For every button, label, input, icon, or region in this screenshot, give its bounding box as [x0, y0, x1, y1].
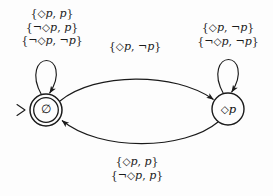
transition-diamond-p-to-empty-label-line1: {◇p, p}: [92, 155, 182, 169]
self-loop-empty-label: {◇p, p} {¬◇p, p} {¬◇p, ¬p}: [12, 7, 92, 48]
transition-diamond-p-to-empty-edge: [62, 121, 218, 144]
transition-empty-to-diamond-p-edge: [60, 79, 214, 101]
self-loop-empty-label-line1: {◇p, p}: [12, 7, 92, 21]
self-loop-empty-label-line3: {¬◇p, ¬p}: [12, 34, 92, 48]
self-loop-diamond-p-label-line2: {¬◇p, ¬p}: [185, 35, 271, 49]
transition-empty-to-diamond-p-label: {◇p, ¬p}: [95, 40, 175, 54]
automaton-diagram: ∅ ◇p {◇p, p} {¬◇p, p} {¬◇p, ¬p} {◇p, ¬p}…: [0, 0, 273, 196]
state-diamond-p-label: ◇p: [221, 104, 236, 116]
self-loop-diamond-p-label-line1: {◇p, ¬p}: [185, 21, 271, 35]
transition-empty-to-diamond-p-label-line1: {◇p, ¬p}: [95, 40, 175, 54]
self-loop-empty-label-line2: {¬◇p, p}: [12, 21, 92, 35]
self-loop-diamond-p-edge: [218, 60, 239, 94]
state-empty-label: ∅: [41, 104, 51, 116]
transition-diamond-p-to-empty-label: {◇p, p} {¬◇p, p}: [92, 155, 182, 182]
transition-diamond-p-to-empty-label-line2: {¬◇p, p}: [92, 169, 182, 183]
start-arrow-icon: [17, 105, 25, 116]
self-loop-empty-edge: [36, 61, 57, 95]
self-loop-diamond-p-label: {◇p, ¬p} {¬◇p, ¬p}: [185, 21, 271, 48]
